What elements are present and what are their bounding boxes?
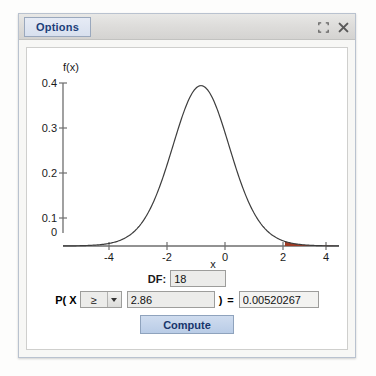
chart-curve-layer: x (27, 50, 347, 268)
x-value-input[interactable] (127, 291, 215, 308)
options-window: Options (18, 13, 356, 358)
equals-sign: = (227, 294, 233, 306)
compute-button[interactable]: Compute (140, 315, 234, 334)
titlebar-buttons (318, 14, 349, 40)
df-input[interactable] (170, 270, 226, 287)
compute-row: Compute (27, 312, 347, 334)
chevron-down-icon[interactable] (107, 292, 121, 307)
options-tab[interactable]: Options (24, 17, 91, 37)
distribution-chart: f(x) 0.4 0.3 0.2 0.1 0 (27, 50, 347, 268)
controls-area: DF: P( X ≥ ) = Compute (27, 270, 347, 338)
df-label: DF: (148, 273, 166, 285)
probability-prefix: P( X (55, 294, 76, 306)
options-tab-label: Options (36, 21, 79, 33)
probability-row: P( X ≥ ) = (27, 291, 347, 308)
close-icon[interactable] (338, 22, 349, 33)
applet-root: Options (0, 0, 376, 376)
result-output[interactable] (239, 291, 319, 308)
operator-select[interactable]: ≥ (80, 291, 122, 308)
window-titlebar: Options (19, 14, 355, 40)
df-row: DF: (27, 270, 347, 287)
t-density-curve (63, 86, 339, 246)
close-paren: ) (219, 294, 223, 306)
content-panel: f(x) 0.4 0.3 0.2 0.1 0 (26, 47, 348, 350)
maximize-icon[interactable] (318, 22, 329, 33)
x-axis-label: x (210, 258, 216, 268)
operator-value: ≥ (81, 292, 107, 307)
